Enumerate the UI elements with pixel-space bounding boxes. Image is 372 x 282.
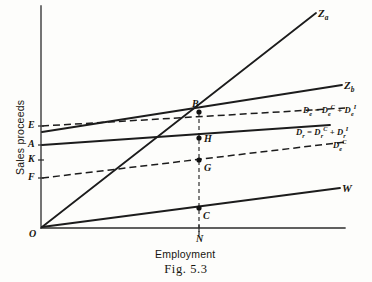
y-tick-label-E: E bbox=[28, 120, 35, 130]
eq-dr-equals: = bbox=[305, 127, 315, 137]
chart-plot-area bbox=[0, 0, 372, 282]
curve-label-zb-sub: b bbox=[351, 85, 355, 94]
curve-label-za-sub: a bbox=[325, 13, 329, 22]
figure-container: Sales proceeds Employment O E A K F N B … bbox=[0, 0, 372, 282]
y-tick-label-A: A bbox=[28, 139, 35, 149]
curve-w bbox=[42, 188, 340, 227]
point-label-H: H bbox=[204, 134, 212, 144]
curve-za bbox=[42, 13, 316, 227]
curve-dr bbox=[42, 125, 330, 145]
eq-de-plus: + bbox=[335, 105, 345, 115]
eq-de-equals: = bbox=[312, 105, 322, 115]
curve-label-w-text: W bbox=[342, 182, 352, 194]
curve-de bbox=[42, 108, 345, 126]
point-label-B: B bbox=[192, 99, 199, 109]
origin-label: O bbox=[29, 229, 36, 239]
data-point-C bbox=[196, 205, 201, 210]
y-axis-title: Sales proceeds bbox=[14, 100, 26, 175]
point-label-C: C bbox=[203, 211, 210, 221]
eq-dr-t1-sub: r bbox=[321, 132, 324, 139]
figure-caption: Fig. 5.3 bbox=[0, 262, 372, 277]
curve-label-zb-text: Z bbox=[344, 79, 351, 91]
equation-dr: Dr = DrC + DrI bbox=[296, 126, 348, 139]
data-point-B bbox=[196, 109, 201, 114]
equation-dec: DeC bbox=[333, 139, 346, 152]
x-axis-title: Employment bbox=[155, 248, 215, 260]
y-tick-label-F: F bbox=[28, 172, 35, 182]
curve-label-za: Za bbox=[318, 8, 328, 22]
eq-de-t1-sub: e bbox=[328, 110, 331, 117]
eq-de-t2-sub: e bbox=[351, 110, 354, 117]
curve-label-zb: Zb bbox=[344, 80, 354, 94]
curve-label-za-text: Z bbox=[318, 7, 325, 19]
equation-de: De = DeC + DeI bbox=[303, 104, 356, 117]
data-point-H bbox=[196, 135, 201, 140]
eq-dr-plus: + bbox=[327, 127, 337, 137]
point-label-G: G bbox=[204, 163, 211, 173]
data-point-G bbox=[196, 157, 201, 162]
curve-dec bbox=[42, 142, 345, 178]
x-tick-label-N: N bbox=[196, 234, 203, 244]
eq-dec-lhs-sub: e bbox=[339, 145, 342, 152]
eq-de-t2-sup: I bbox=[354, 103, 357, 110]
y-tick-label-K: K bbox=[28, 154, 35, 164]
eq-dec-lhs-sup: C bbox=[342, 138, 346, 145]
eq-dr-t2-sup: I bbox=[346, 125, 349, 132]
curve-label-w: W bbox=[342, 183, 352, 194]
